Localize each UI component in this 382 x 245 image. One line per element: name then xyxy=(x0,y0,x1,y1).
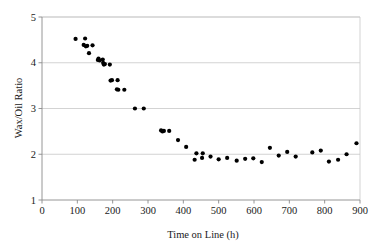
data-point xyxy=(285,150,289,154)
x-tick-label: 600 xyxy=(246,205,262,216)
x-tick-label: 700 xyxy=(281,205,297,216)
y-tick-label: 5 xyxy=(31,12,36,23)
data-point xyxy=(354,141,358,145)
data-point xyxy=(225,156,229,160)
data-point xyxy=(208,154,212,158)
data-point xyxy=(268,146,272,150)
data-point xyxy=(162,129,166,133)
data-point xyxy=(200,156,204,160)
y-tick-label: 2 xyxy=(31,149,36,160)
y-tick-label: 4 xyxy=(31,57,37,68)
chart-figure: 12345 0100200300400500600700800900 Time … xyxy=(0,0,382,245)
x-tick-label: 400 xyxy=(175,205,191,216)
data-point xyxy=(310,150,314,154)
data-point xyxy=(167,129,171,133)
data-point xyxy=(122,88,126,92)
data-point xyxy=(116,88,120,92)
data-point xyxy=(294,154,298,158)
data-point xyxy=(176,138,180,142)
x-tick-label: 900 xyxy=(352,205,368,216)
x-tick-label: 200 xyxy=(105,205,121,216)
data-point xyxy=(344,152,348,156)
y-tick-label: 3 xyxy=(31,103,36,114)
data-point xyxy=(336,158,340,162)
data-point xyxy=(235,159,239,163)
data-point xyxy=(108,62,112,66)
data-point xyxy=(83,36,87,40)
data-point xyxy=(194,151,198,155)
x-axis-title: Time on Line (h) xyxy=(167,229,239,241)
x-tick-label: 800 xyxy=(317,205,333,216)
data-point xyxy=(184,145,188,149)
data-point xyxy=(217,157,221,161)
x-tick-label: 100 xyxy=(69,205,85,216)
data-point xyxy=(243,157,247,161)
data-point xyxy=(260,160,264,164)
data-point xyxy=(277,154,281,158)
data-point xyxy=(110,78,114,82)
data-point xyxy=(201,151,205,155)
y-tick-label: 1 xyxy=(31,195,36,206)
data-point xyxy=(73,37,77,41)
data-point xyxy=(103,62,107,66)
y-axis-title: Wax/Oil Ratio xyxy=(13,78,24,139)
data-point xyxy=(85,44,89,48)
data-point xyxy=(90,43,94,47)
scatter-plot: 12345 0100200300400500600700800900 Time … xyxy=(0,0,382,245)
data-point xyxy=(133,106,137,110)
data-point xyxy=(87,51,91,55)
data-point xyxy=(193,158,197,162)
data-point xyxy=(327,159,331,163)
x-tick-label: 500 xyxy=(211,205,227,216)
data-point xyxy=(116,78,120,82)
x-tick-label: 0 xyxy=(39,205,44,216)
x-tick-label: 300 xyxy=(140,205,156,216)
data-point xyxy=(319,148,323,152)
data-point xyxy=(142,106,146,110)
data-point xyxy=(251,156,255,160)
